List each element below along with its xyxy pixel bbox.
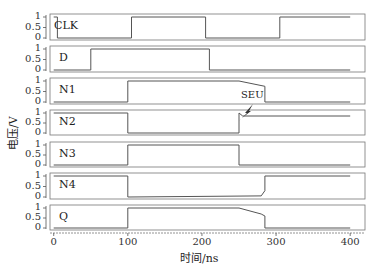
y-tick-label: 0.5 [19,85,41,96]
panel-frame [50,78,365,104]
y-tick-label: 0.5 [19,53,41,64]
y-tick-label: 1 [19,42,41,53]
waveform-n2 [54,113,351,133]
waveform-plot [0,0,378,272]
panel-frame [50,205,365,230]
panel-label-n1: N1 [59,83,76,96]
y-tick-label: 0.5 [19,180,41,191]
waveform-clk [54,17,351,38]
panel-frame [50,46,365,72]
y-tick-label: 0.5 [19,21,41,32]
y-tick-label: 1 [19,169,41,180]
panel-frame [50,14,365,40]
x-tick-label: 300 [261,236,291,247]
waveform-n3 [54,145,351,165]
x-axis-label: 时间/ns [180,249,218,265]
panel-frame [50,142,365,167]
panel-label-clk: CLK [54,19,78,32]
y-tick-label: 1 [19,74,41,85]
x-tick-label: 200 [187,236,217,247]
panel-label-q: Q [59,210,68,223]
y-tick-label: 0 [19,190,41,201]
panel-label-d: D [59,51,68,64]
lightning-icon [239,104,253,121]
y-tick-label: 0 [19,126,41,137]
y-tick-label: 0 [19,158,41,169]
y-tick-label: 0 [19,221,41,232]
panel-label-n4: N4 [59,178,76,191]
panel-label-n2: N2 [59,115,76,128]
panel-frame [50,173,365,199]
waveform-q [54,208,351,228]
y-tick-label: 1 [19,10,41,21]
x-tick-label: 400 [335,236,365,247]
x-tick-label: 100 [113,236,143,247]
seu-annotation: SEU [241,89,264,100]
y-tick-label: 0 [19,31,41,42]
waveform-n1 [54,81,351,102]
waveform-d [54,49,351,70]
y-axis-label: 电压/V [4,116,20,150]
x-tick-label: 0 [39,236,69,247]
y-tick-label: 0 [19,95,41,106]
panel-frame [50,110,365,135]
panel-label-n3: N3 [59,147,76,160]
waveform-n4 [54,176,351,197]
y-tick-label: 0 [19,63,41,74]
